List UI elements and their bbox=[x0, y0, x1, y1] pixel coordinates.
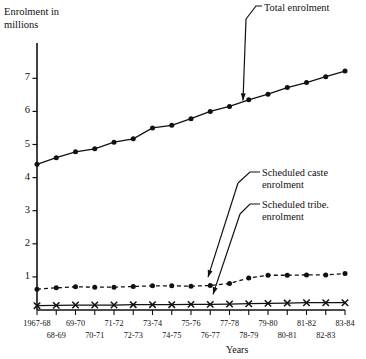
x-tick-label-75-76: 75-76 bbox=[170, 319, 212, 328]
x-tick-label-80-81: 80-81 bbox=[266, 331, 308, 340]
x-tick-label-79-80: 79-80 bbox=[247, 319, 289, 328]
data-point bbox=[169, 123, 174, 128]
data-point bbox=[246, 97, 251, 102]
data-point bbox=[112, 140, 117, 145]
annotation-scheduled-tribe-line2: enrolment bbox=[262, 211, 329, 223]
data-point bbox=[266, 273, 271, 278]
x-tick-label-70-71: 70-71 bbox=[74, 331, 116, 340]
data-point bbox=[92, 285, 97, 290]
data-point bbox=[343, 271, 348, 276]
x-tick-label-69-70: 69-70 bbox=[55, 319, 97, 328]
x-tick-label-83-84: 83-84 bbox=[324, 319, 366, 328]
y-tick-label-6: 6 bbox=[12, 104, 30, 115]
y-tick-label-5: 5 bbox=[12, 138, 30, 149]
data-point bbox=[73, 149, 78, 154]
x-tick-label-74-75: 74-75 bbox=[151, 331, 193, 340]
data-point bbox=[208, 109, 213, 114]
x-tick-label-81-82: 81-82 bbox=[286, 319, 328, 328]
x-tick-label-68-69: 68-69 bbox=[35, 331, 77, 340]
data-point bbox=[304, 80, 309, 85]
data-point bbox=[131, 284, 136, 289]
annotation-leader-lines bbox=[208, 6, 262, 294]
y-tick-label-7: 7 bbox=[12, 71, 30, 82]
data-point bbox=[266, 92, 271, 97]
data-point bbox=[343, 69, 348, 74]
data-point bbox=[35, 287, 40, 292]
data-point bbox=[208, 283, 213, 288]
x-tick-label-73-74: 73-74 bbox=[132, 319, 174, 328]
annotation-total-enrolment: Total enrolment bbox=[264, 2, 329, 14]
data-point bbox=[150, 283, 155, 288]
y-tick-label-1: 1 bbox=[12, 270, 30, 281]
annotation-total-enrolment-text: Total enrolment bbox=[264, 2, 329, 14]
data-point bbox=[323, 272, 328, 277]
x-tick-label-76-77: 76-77 bbox=[189, 331, 231, 340]
x-tick-label-78-79: 78-79 bbox=[228, 331, 270, 340]
x-tick-label-77-78: 77-78 bbox=[209, 319, 251, 328]
chart-container: Enrolment in millions 1234567 1967-6868-… bbox=[0, 0, 366, 359]
x-tick-label-72-73: 72-73 bbox=[112, 331, 154, 340]
x-tick-label-82-83: 82-83 bbox=[305, 331, 347, 340]
data-point bbox=[35, 162, 40, 167]
x-tick-label-71-72: 71-72 bbox=[93, 319, 135, 328]
data-point bbox=[246, 275, 251, 280]
x-tick-label-1967-68: 1967-68 bbox=[16, 319, 58, 328]
data-point bbox=[131, 136, 136, 141]
data-point bbox=[112, 285, 117, 290]
annotation-scheduled-tribe-line1: Scheduled tribe. bbox=[262, 199, 329, 211]
data-point bbox=[285, 273, 290, 278]
data-point bbox=[169, 283, 174, 288]
data-point bbox=[54, 285, 59, 290]
data-point bbox=[73, 284, 78, 289]
x-axis-title: Years bbox=[226, 344, 248, 355]
data-point bbox=[54, 155, 59, 160]
y-tick-label-3: 3 bbox=[12, 204, 30, 215]
data-point bbox=[304, 272, 309, 277]
annotation-scheduled-caste-line1: Scheduled caste bbox=[262, 167, 328, 179]
data-point bbox=[285, 85, 290, 90]
data-point bbox=[227, 104, 232, 109]
data-point bbox=[189, 284, 194, 289]
y-tick-label-4: 4 bbox=[12, 171, 30, 182]
annotation-scheduled-caste: Scheduled caste enrolment bbox=[262, 167, 328, 191]
data-point bbox=[92, 146, 97, 151]
annotation-scheduled-caste-line2: enrolment bbox=[262, 179, 328, 191]
data-point bbox=[323, 74, 328, 79]
y-tick-label-2: 2 bbox=[12, 237, 30, 248]
data-point bbox=[189, 116, 194, 121]
data-point bbox=[150, 125, 155, 130]
annotation-scheduled-tribe: Scheduled tribe. enrolment bbox=[262, 199, 329, 223]
data-point bbox=[227, 281, 232, 286]
